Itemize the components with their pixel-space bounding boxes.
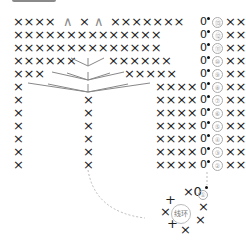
- stitch: ×: [198, 201, 209, 213]
- stitch: ×: [180, 224, 191, 236]
- dashed-start-path: [88, 170, 145, 218]
- chart-lines: [0, 0, 246, 246]
- fan-lines: [28, 58, 150, 92]
- slip-stitch-dot: [205, 186, 208, 189]
- stitch: ×: [195, 214, 206, 226]
- stitch: +: [167, 218, 178, 230]
